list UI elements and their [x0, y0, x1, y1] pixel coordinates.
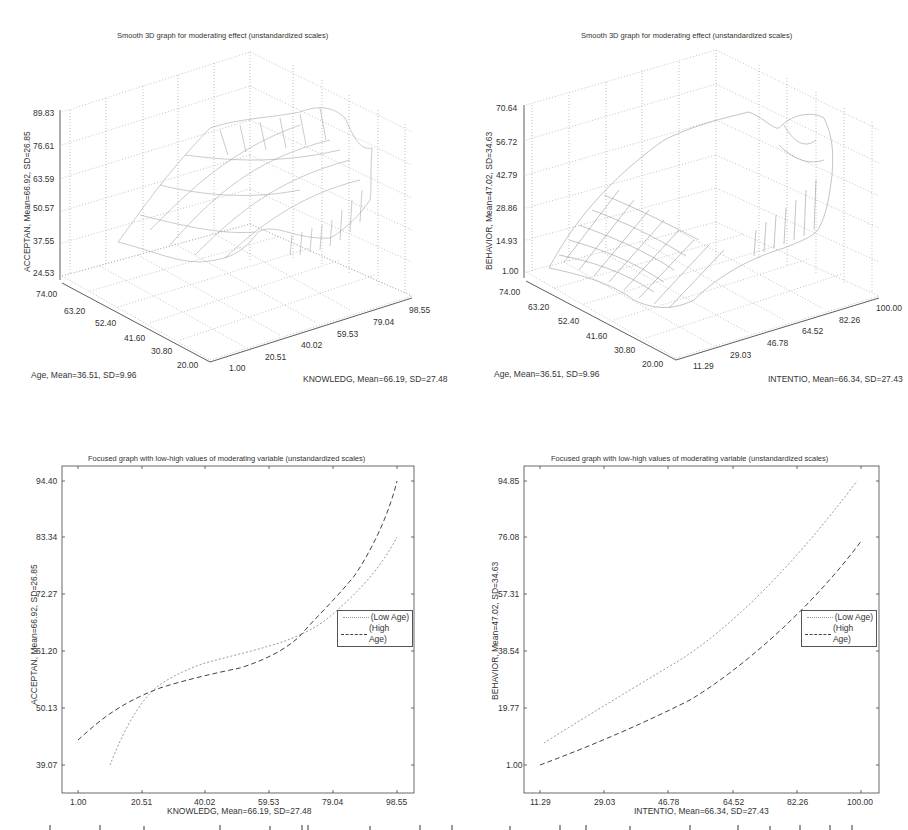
- y-tick: 76.08: [498, 532, 519, 542]
- x-axis-label: INTENTIO, Mean=66.34, SD=27.43: [634, 806, 769, 816]
- line-chart-graphic: [0, 0, 908, 830]
- y-axis-label: BEHAVIOR, Mean=47.02, SD=34.63: [490, 562, 500, 700]
- figure-caption-cut-off: [40, 822, 870, 830]
- x-tick: 29.03: [594, 797, 615, 807]
- legend-swatch-dashed: [805, 634, 831, 635]
- y-tick: 57.31: [498, 589, 519, 599]
- x-tick: 11.29: [530, 797, 551, 807]
- legend-label: (Low Age): [835, 612, 873, 623]
- line-plot-behavior: Focused graph with low-high values of mo…: [0, 0, 908, 830]
- y-tick: 38.54: [498, 646, 519, 656]
- x-tick: 100.00: [847, 797, 873, 807]
- series-high-age: [540, 540, 862, 765]
- caption-glyph-tops: [40, 822, 870, 830]
- y-tick: 94.85: [498, 476, 519, 486]
- legend-swatch-dotted: [807, 617, 833, 618]
- y-tick: 19.77: [498, 703, 519, 713]
- x-tick: 82.26: [787, 797, 808, 807]
- legend-item-low-age: (Low Age): [805, 612, 873, 623]
- legend-item-high-age: (High Age): [805, 623, 873, 645]
- legend-label: (High Age): [833, 623, 873, 645]
- y-tick: 1.00: [506, 760, 523, 770]
- legend: (Low Age) (High Age): [801, 610, 877, 647]
